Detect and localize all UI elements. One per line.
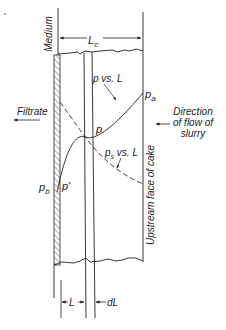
direction-label-line2: of flow of: [173, 117, 214, 128]
p-prime-label: p': [61, 180, 71, 192]
p-vs-L-leader: [104, 84, 116, 100]
filtrate-label: Filtrate: [17, 106, 48, 117]
upstream-face-label: Upstream face of cake: [145, 145, 156, 245]
L-label: L: [69, 297, 75, 308]
p-vs-L-label: p vs. L: [92, 73, 122, 84]
pressure-curve: [57, 93, 143, 192]
bottom-break-line: [54, 258, 143, 265]
filter-cake-diagram: Medium Lc p vs. L pa p ps vs. L pb p' Fi…: [0, 0, 226, 330]
top-break-line: [58, 49, 143, 54]
p-label: p: [95, 123, 102, 135]
filter-medium-strip: [54, 55, 60, 265]
dL-label: dL: [107, 297, 118, 308]
slab-left-line: [84, 53, 86, 318]
direction-label-line1: Direction: [173, 106, 213, 117]
ps-vs-L-leader: [117, 158, 121, 168]
slab-right-line: [92, 52, 95, 318]
medium-label: Medium: [43, 16, 54, 52]
pa-label: pa: [144, 88, 156, 103]
stray-dot: [4, 13, 6, 15]
pb-label: pb: [38, 181, 50, 196]
direction-label-line3: slurry: [181, 128, 206, 139]
